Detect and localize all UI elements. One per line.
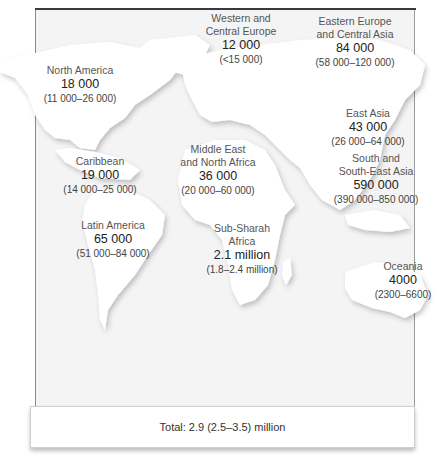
region-caribbean: Caribbean 19 000 (14 000–25 000) — [63, 155, 136, 196]
total-label: Total: 2.9 (2.5–3.5) million — [160, 421, 286, 433]
southeast-asia-islands-shape — [345, 210, 410, 232]
region-north-america: North America 18 000 (11 000–26 000) — [44, 64, 117, 105]
region-east-asia: East Asia 43 000 (26 000–64 000) — [331, 107, 404, 148]
total-box: Total: 2.9 (2.5–3.5) million — [30, 406, 415, 448]
region-eastern-europe-central-asia: Eastern Europe and Central Asia 84 000 (… — [316, 15, 395, 69]
madagascar-shape — [282, 258, 292, 285]
region-south-southeast-asia: South and South-East Asia 590 000 (390 0… — [334, 152, 419, 206]
region-middle-east-north-africa: Middle East and North Africa 36 000 (20 … — [180, 143, 255, 197]
region-sub-saharan-africa: Sub-Sharah Africa 2.1 million (1.8–2.4 m… — [206, 222, 277, 276]
region-latin-america: Latin America 65 000 (51 000–84 000) — [76, 219, 149, 260]
region-western-central-europe: Western and Central Europe 12 000 (<15 0… — [206, 12, 277, 66]
region-oceania: Oceania 4000 (2300–6600) — [375, 260, 432, 301]
